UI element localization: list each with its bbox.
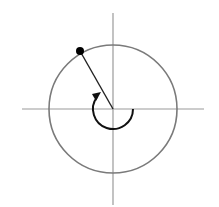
terminal-ray: [80, 51, 113, 109]
arrowhead-icon: [92, 92, 101, 101]
terminal-point: [76, 47, 84, 55]
unit-circle-diagram: [0, 0, 219, 207]
